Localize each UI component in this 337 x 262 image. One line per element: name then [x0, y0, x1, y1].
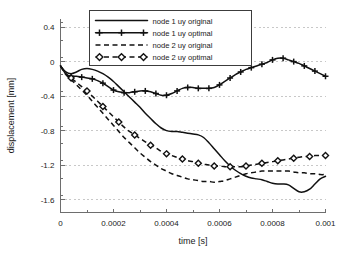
- marker-diamond: [179, 156, 185, 162]
- marker-plus: [301, 63, 307, 69]
- x-tick-label: 0.001: [315, 219, 336, 228]
- marker-diamond: [323, 153, 329, 159]
- marker-plus: [270, 57, 276, 63]
- series-path: [61, 66, 326, 192]
- legend: node 1 uy originalnode 1 uy optimalnode …: [90, 11, 252, 66]
- series-1: [61, 66, 326, 192]
- marker-diamond: [307, 153, 313, 159]
- legend-label: node 2 uy original: [153, 41, 213, 50]
- marker-diamond: [291, 155, 297, 161]
- marker-plus: [291, 59, 297, 65]
- x-axis-title: time [s]: [178, 236, 207, 246]
- marker-plus: [164, 92, 170, 98]
- marker-plus: [89, 76, 95, 82]
- marker-plus: [206, 85, 212, 91]
- y-tick-label: -1.6: [41, 196, 55, 205]
- marker-diamond: [275, 158, 281, 164]
- marker-diamond: [195, 160, 201, 166]
- y-tick-labels: 0.40-0.4-0.8-1.2-1.6: [41, 23, 55, 204]
- chart-figure: 00.00020.00040.00060.00080.001 0.40-0.4-…: [0, 0, 337, 262]
- x-tick-label: 0.0006: [207, 219, 232, 228]
- marker-plus: [142, 88, 148, 94]
- marker-plus: [185, 84, 191, 90]
- marker-plus: [312, 68, 318, 74]
- marker-diamond: [148, 142, 154, 148]
- x-tick-label: 0.0008: [260, 219, 285, 228]
- marker-plus: [280, 55, 286, 61]
- y-tick-label: -1.2: [41, 161, 55, 170]
- x-tick-label: 0.0002: [101, 219, 126, 228]
- y-tick-label: -0.8: [41, 127, 55, 136]
- marker-plus: [132, 89, 138, 95]
- y-tick-label: 0: [50, 58, 55, 67]
- x-tick-labels: 00.00020.00040.00060.00080.001: [58, 219, 336, 228]
- x-tick-label: 0.0004: [154, 219, 179, 228]
- data-series: [61, 55, 329, 192]
- y-axis-title: displacement [mm]: [6, 78, 16, 154]
- displacement-vs-time-plot: 00.00020.00040.00060.00080.001 0.40-0.4-…: [0, 0, 337, 262]
- legend-label: node 2 uy optimal: [153, 53, 213, 62]
- marker-diamond: [243, 163, 249, 169]
- marker-diamond: [211, 163, 217, 169]
- marker-plus: [174, 88, 180, 94]
- marker-plus: [195, 85, 201, 91]
- legend-label: node 1 uy original: [153, 17, 213, 26]
- marker-diamond: [164, 151, 170, 157]
- legend-label: node 1 uy optimal: [153, 29, 213, 38]
- marker-plus: [79, 74, 85, 80]
- x-tick-label: 0: [58, 219, 63, 228]
- y-tick-label: -0.4: [41, 92, 55, 101]
- y-tick-label: 0.4: [43, 23, 55, 32]
- marker-plus: [238, 69, 244, 75]
- marker-plus: [323, 73, 329, 79]
